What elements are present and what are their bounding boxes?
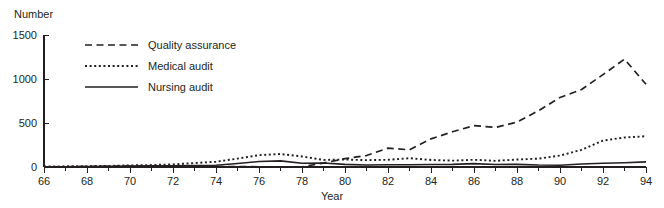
x-tick-label: 82 <box>382 175 394 187</box>
x-tick-label: 94 <box>640 175 652 187</box>
y-axis-tick-labels: 050010001500 <box>13 29 37 173</box>
legend-label-3: Nursing audit <box>148 81 213 93</box>
line-chart: Number 050010001500 66687072747678808284… <box>0 0 664 208</box>
y-axis-ticks <box>44 35 49 167</box>
data-series-group <box>44 59 646 167</box>
x-tick-label: 74 <box>210 175 222 187</box>
series-line-2 <box>44 136 646 166</box>
y-tick-label: 1000 <box>13 73 37 85</box>
plot-area: 050010001500 666870727476788082848688909… <box>0 0 664 208</box>
x-axis-tick-labels: 666870727476788082848688909294 <box>38 175 652 187</box>
x-tick-label: 70 <box>124 175 136 187</box>
x-tick-label: 92 <box>597 175 609 187</box>
series-line-3 <box>44 161 646 167</box>
chart-legend: Quality assuranceMedical auditNursing au… <box>85 39 236 93</box>
x-tick-label: 66 <box>38 175 50 187</box>
x-tick-label: 90 <box>554 175 566 187</box>
x-tick-label: 72 <box>167 175 179 187</box>
x-tick-label: 78 <box>296 175 308 187</box>
x-tick-label: 84 <box>425 175 437 187</box>
legend-label-1: Quality assurance <box>148 39 236 51</box>
x-tick-label: 88 <box>511 175 523 187</box>
series-line-1 <box>44 59 646 167</box>
y-tick-label: 1500 <box>13 29 37 41</box>
x-tick-label: 86 <box>468 175 480 187</box>
x-axis-label: Year <box>0 190 664 203</box>
y-tick-label: 0 <box>31 161 37 173</box>
legend-label-2: Medical audit <box>148 60 213 72</box>
x-tick-label: 76 <box>253 175 265 187</box>
y-tick-label: 500 <box>19 117 37 129</box>
x-tick-label: 68 <box>81 175 93 187</box>
x-tick-label: 80 <box>339 175 351 187</box>
x-axis-ticks <box>44 167 646 173</box>
